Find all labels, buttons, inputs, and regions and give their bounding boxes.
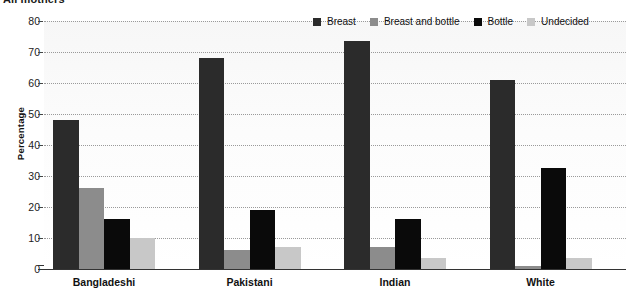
legend-swatch-icon [313,18,321,26]
y-axis-tick-label: 70 [16,47,40,58]
legend-label: Undecided [541,17,589,27]
y-axis-tick-mark [38,145,43,146]
legend-item[interactable]: Bottle [474,17,514,27]
legend-swatch-icon [474,18,482,26]
y-axis-tick-mark [38,114,43,115]
y-axis-tick-label: 10 [16,233,40,244]
bar[interactable] [130,238,156,269]
y-axis-tick-label: 80 [16,16,40,27]
bar-chart: All mothers Percentage 01020304050607080… [0,0,626,305]
y-axis-line [38,265,44,266]
legend-label: Bottle [488,17,514,27]
y-axis-tick-mark [38,21,43,22]
legend: BreastBreast and bottleBottleUndecided [313,15,603,28]
bar[interactable] [541,168,567,269]
x-axis-category-label: Indian [324,276,466,288]
bar[interactable] [370,247,396,269]
x-axis-category-labels: BangladeshiPakistaniIndianWhite [44,276,626,296]
legend-item[interactable]: Breast [313,17,356,27]
x-axis-category-label: Pakistani [179,276,321,288]
bar[interactable] [421,258,447,269]
bar[interactable] [275,247,301,269]
y-axis-tick-mark [38,52,43,53]
bar[interactable] [490,80,516,269]
bar[interactable] [344,41,370,269]
bar[interactable] [224,250,250,269]
bar[interactable] [104,219,130,269]
x-axis-category-label: Bangladeshi [33,276,175,288]
y-axis-tick-mark [38,176,43,177]
legend-swatch-icon [370,18,378,26]
y-axis-tick-label: 0 [16,264,40,275]
legend-item[interactable]: Breast and bottle [370,17,460,27]
y-axis-tick-mark [38,238,43,239]
y-axis-tick-label: 20 [16,202,40,213]
y-axis-tick-label: 60 [16,78,40,89]
y-axis-tick-labels: 01020304050607080 [0,0,40,305]
bar[interactable] [79,188,105,269]
bar[interactable] [250,210,276,269]
legend-swatch-icon [527,18,535,26]
y-axis-tick-mark [38,83,43,84]
legend-item[interactable]: Undecided [527,17,589,27]
legend-label: Breast [327,17,356,27]
bar[interactable] [53,120,79,269]
y-axis-tick-label: 40 [16,140,40,151]
bar[interactable] [395,219,421,269]
bar-group [53,21,155,269]
x-axis-category-label: White [470,276,612,288]
legend-label: Breast and bottle [384,17,460,27]
y-axis-tick-label: 30 [16,171,40,182]
bar-group [199,21,301,269]
y-axis-tick-label: 50 [16,109,40,120]
x-axis-line [38,269,626,270]
bar-group [344,21,446,269]
y-axis-tick-mark [38,207,43,208]
bar-group [490,21,592,269]
bar[interactable] [566,258,592,269]
bar[interactable] [199,58,225,269]
bars-layer [44,21,626,269]
